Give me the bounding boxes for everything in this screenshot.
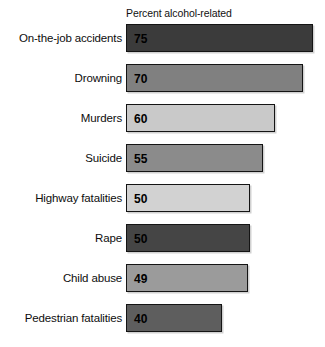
- bar-drowning[interactable]: 70: [126, 64, 303, 92]
- bar-row: Drowning 70: [0, 64, 325, 92]
- category-label: Rape: [95, 224, 122, 252]
- bar-suicide[interactable]: 55: [126, 144, 263, 172]
- bar-value-label: 75: [134, 25, 148, 53]
- category-label: Drowning: [75, 64, 122, 92]
- bar-value-label: 40: [134, 305, 148, 333]
- bar-value-label: 70: [134, 65, 148, 93]
- alcohol-related-bar-chart: Percent alcohol-related On-the-job accid…: [0, 0, 325, 347]
- bar-row: Child abuse 49: [0, 264, 325, 292]
- bar-pedestrian-fatalities[interactable]: 40: [126, 304, 222, 332]
- bar-row: On-the-job accidents 75: [0, 24, 325, 52]
- category-label: Child abuse: [63, 264, 122, 292]
- bar-child-abuse[interactable]: 49: [126, 264, 248, 292]
- category-label: Murders: [81, 104, 122, 132]
- category-label: On-the-job accidents: [19, 24, 122, 52]
- bar-rape[interactable]: 50: [126, 224, 250, 252]
- bar-row: Rape 50: [0, 224, 325, 252]
- bar-value-label: 60: [134, 105, 148, 133]
- chart-title: Percent alcohol-related: [126, 7, 232, 19]
- bar-murders[interactable]: 60: [126, 104, 275, 132]
- bar-row: Murders 60: [0, 104, 325, 132]
- bar-row: Suicide 55: [0, 144, 325, 172]
- bar-on-the-job-accidents[interactable]: 75: [126, 24, 313, 52]
- category-label: Pedestrian fatalities: [25, 304, 122, 332]
- bar-value-label: 55: [134, 145, 148, 173]
- bar-value-label: 49: [134, 265, 148, 293]
- bar-value-label: 50: [134, 225, 148, 253]
- bar-value-label: 50: [134, 185, 148, 213]
- bar-row: Highway fatalities 50: [0, 184, 325, 212]
- bar-row: Pedestrian fatalities 40: [0, 304, 325, 332]
- category-label: Suicide: [85, 144, 122, 172]
- bar-highway-fatalities[interactable]: 50: [126, 184, 250, 212]
- category-label: Highway fatalities: [35, 184, 122, 212]
- plot-area: On-the-job accidents 75 Drowning 70 Murd…: [0, 24, 325, 344]
